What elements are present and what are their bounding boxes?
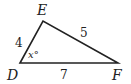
side-label-df: 7 [60, 68, 68, 82]
vertex-label-d: D [6, 67, 18, 83]
angle-label-d: x° [28, 49, 39, 60]
vertex-label-e: E [36, 2, 47, 18]
vertex-label-f: F [111, 67, 123, 83]
triangle-diagram: E D F 4 5 7 x° [0, 0, 131, 84]
side-label-ef: 5 [80, 26, 88, 40]
side-label-de: 4 [15, 36, 23, 50]
